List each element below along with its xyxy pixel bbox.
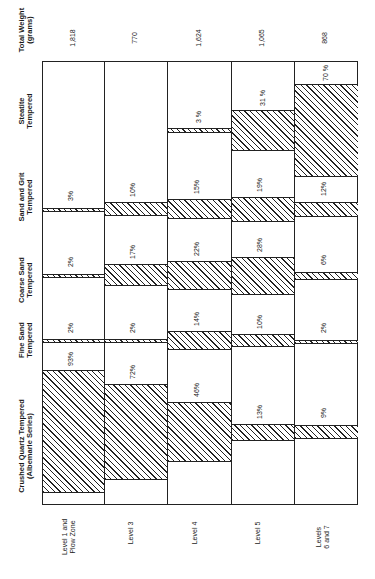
header-fine-sand: Fine Sand Tempered [18,305,34,375]
label-sand-grit: 15% [193,172,201,202]
label-crushed-quartz: 72% [129,357,137,387]
label-fine-sand: 14% [193,304,201,334]
label-sand-grit: 19% [256,170,264,200]
label-crushed-quartz: 46% [193,375,201,405]
label-coarse-sand: 6% [320,245,328,275]
header-sand-grit: Sand and Grit Tempered [18,157,34,237]
bar-sand-grit-levels-6-7 [295,202,358,217]
level-label: Level 5 [254,513,262,553]
label-coarse-sand: 22% [193,234,201,264]
weight-value: 868 [321,18,329,58]
label-coarse-sand: 2% [67,247,75,277]
header-total-weight: Total Weight (grams) [18,0,34,60]
label-fine-sand: 2% [320,313,328,343]
weight-value: 1,624 [195,18,203,58]
label-steatite: 70 % [322,58,330,88]
level-label: Levels 6 and 7 [315,515,331,560]
label-sand-grit: 12% [320,174,328,204]
weight-value: 1,065 [258,18,266,58]
header-steatite: Steatite Tempered [18,81,34,141]
bar-sand-grit-level-4 [168,199,231,219]
label-fine-sand: 2% [67,313,75,343]
label-crushed-quartz: 9% [320,398,328,428]
bar-steatite-levels-6-7 [295,84,358,177]
bar-crushed-quartz-level-1 [43,370,104,493]
label-crushed-quartz: 93% [67,344,75,374]
bar-steatite-level-5 [232,110,294,151]
level-label: Level 4 [191,513,199,553]
label-steatite: 3 % [195,102,203,132]
bar-coarse-sand-level-4 [168,261,231,290]
bar-crushed-quartz-level-3 [105,384,167,480]
bar-sand-grit-level-5 [232,197,294,222]
label-fine-sand: 2% [129,313,137,343]
label-coarse-sand: 17% [129,237,137,267]
label-sand-grit: 10% [129,175,137,205]
weight-value: 1,818 [69,18,77,58]
level-label: Level 1 and Plow Zone [61,512,77,562]
label-sand-grit: 3% [67,181,75,211]
label-steatite: 31 % [259,83,267,113]
bar-coarse-sand-level-3 [105,264,167,286]
header-crushed-quartz: Crushed Quartz Tempered (Albemarle Serie… [18,386,34,506]
label-coarse-sand: 28% [256,230,264,260]
bar-coarse-sand-level-5 [232,257,294,295]
bar-crushed-quartz-level-4 [168,402,231,462]
weight-value: 770 [131,18,139,58]
label-crushed-quartz: 13% [256,397,264,427]
label-fine-sand: 10% [256,307,264,337]
level-label: Level 3 [127,513,135,553]
